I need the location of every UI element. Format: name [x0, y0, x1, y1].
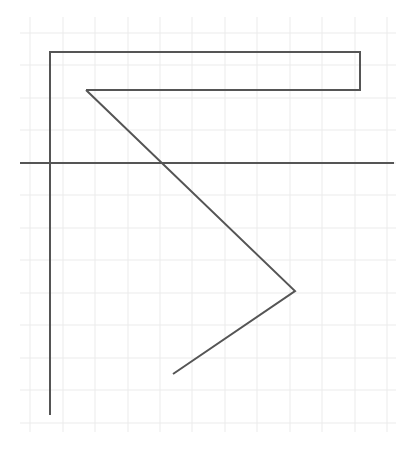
line-diagram [0, 0, 418, 451]
